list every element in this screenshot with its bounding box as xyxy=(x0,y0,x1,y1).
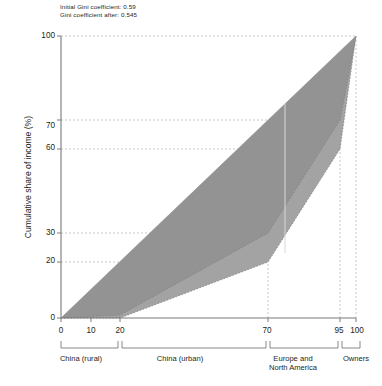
lorenz-chart-svg xyxy=(0,0,382,386)
bracket-china-rural xyxy=(61,341,118,348)
chart-stage: Initial Gini coefficient: 0.59 Gini coef… xyxy=(0,0,382,386)
bracket-china-urban xyxy=(122,341,266,348)
group-brackets xyxy=(61,341,360,348)
bracket-europe-north-america xyxy=(270,341,338,348)
bracket-owners xyxy=(342,341,360,348)
